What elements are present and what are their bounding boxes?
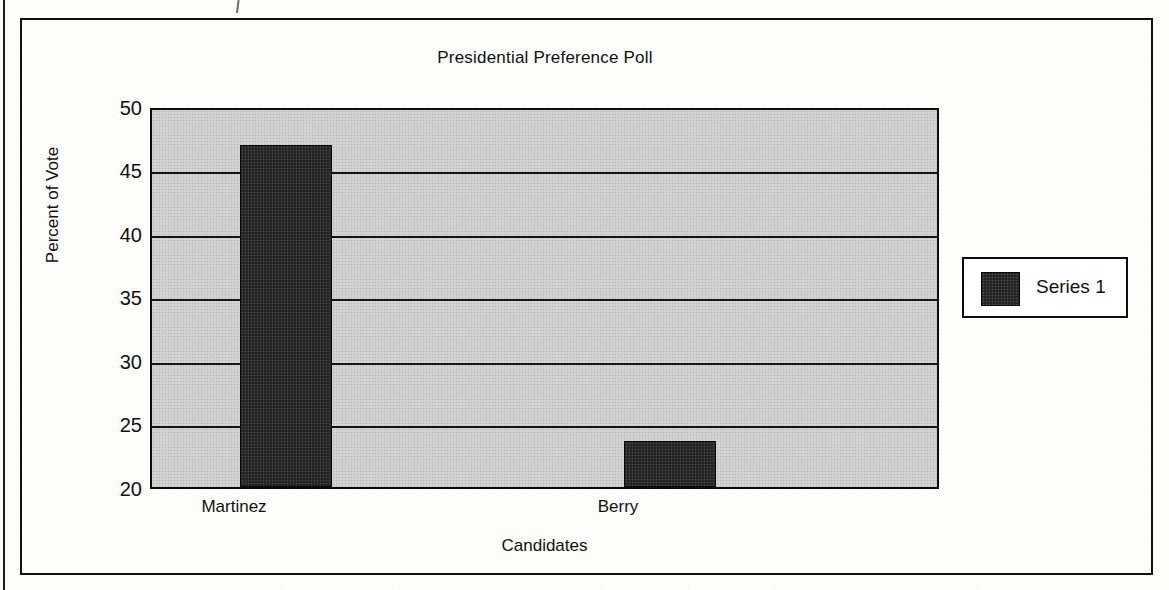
x-axis-title: Candidates [150,536,939,556]
plot-area [150,108,939,489]
y-tick-45: 45 [82,161,142,181]
y-tick-25: 25 [82,415,142,435]
x-tick-martinez: Martinez [104,497,364,517]
y-tick-20: 20 [82,479,142,499]
chart-title: Presidential Preference Poll [150,48,940,68]
page-scan-artifact-mark [236,0,240,13]
y-axis-title: Percent of Vote [43,105,63,305]
legend[interactable]: Series 1 [962,257,1128,318]
bar-berry[interactable] [624,441,716,487]
y-tick-40: 40 [82,225,142,245]
page-margin-rule [3,0,5,590]
y-axis-tick-labels: 50 45 40 35 30 25 20 [78,108,142,489]
bar-martinez[interactable] [240,145,332,487]
y-tick-30: 30 [82,352,142,372]
legend-label-series-1: Series 1 [1036,276,1106,298]
y-tick-50: 50 [82,98,142,118]
x-tick-berry: Berry [488,497,748,517]
scanned-page: Presidential Preference Poll 50 45 40 35… [0,0,1169,590]
legend-swatch-series-1 [981,272,1020,306]
y-tick-35: 35 [82,288,142,308]
